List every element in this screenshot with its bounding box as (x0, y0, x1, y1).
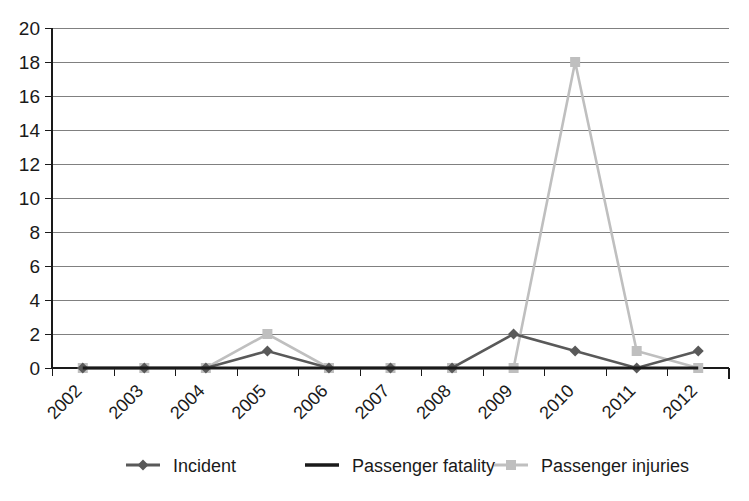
y-tick-label: 14 (19, 120, 41, 141)
y-tick-label: 0 (29, 358, 40, 379)
y-tick-label: 8 (29, 222, 40, 243)
line-chart: 02468101214161820 2002200320042005200620… (0, 0, 749, 501)
legend-label: Incident (173, 456, 236, 476)
y-tick-label: 2 (29, 324, 40, 345)
chart-background (0, 0, 749, 501)
square-marker (262, 329, 272, 339)
square-marker (570, 57, 580, 67)
chart-legend: IncidentPassenger fatalityPassenger inju… (126, 456, 689, 476)
legend-label: Passenger injuries (541, 456, 689, 476)
square-marker (506, 460, 516, 470)
y-tick-label: 6 (29, 256, 40, 277)
y-tick-label: 12 (19, 154, 40, 175)
y-tick-label: 20 (19, 18, 40, 39)
y-tick-label: 4 (29, 290, 40, 311)
y-tick-label: 16 (19, 86, 40, 107)
chart-canvas: 02468101214161820 2002200320042005200620… (0, 0, 749, 501)
legend-label: Passenger fatality (352, 456, 495, 476)
y-tick-label: 10 (19, 188, 40, 209)
square-marker (632, 346, 642, 356)
y-tick-label: 18 (19, 52, 40, 73)
